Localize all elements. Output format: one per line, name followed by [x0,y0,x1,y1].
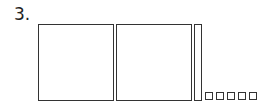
unit-cube-block [205,92,213,100]
problem-number-label: 3. [14,4,30,24]
unit-cubes-group [205,92,257,100]
unit-cube-block [249,92,257,100]
ten-rod-block [194,24,202,101]
hundred-flat-block [38,24,114,101]
unit-cube-block [227,92,235,100]
unit-cube-block [216,92,224,100]
unit-cube-block [238,92,246,100]
hundred-flat-block [116,24,192,101]
